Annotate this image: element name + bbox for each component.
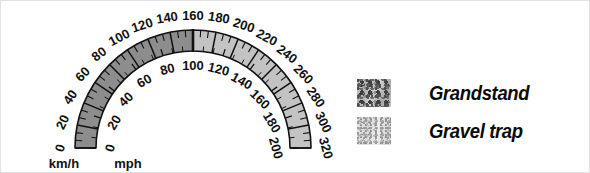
gravel-texture-swatch: [357, 117, 391, 145]
tick-label: 140: [155, 8, 179, 26]
mph-unit-label: mph: [114, 156, 142, 171]
legend-label-grandstand: Grandstand: [429, 81, 529, 105]
legend-item-gravel-trap: Gravel trap: [357, 115, 585, 147]
tick-label: 80: [158, 60, 176, 78]
tick-label: 180: [260, 109, 284, 135]
tick-label: 80: [89, 44, 110, 65]
tick-label: 20: [104, 112, 124, 132]
tick-label: 120: [129, 15, 154, 36]
tick-label: 240: [274, 41, 300, 66]
tick-label: 300: [312, 109, 335, 135]
tick-label: 160: [247, 86, 273, 112]
tick-label: 20: [53, 112, 73, 132]
tick-label: 260: [291, 61, 317, 87]
tick-label: 0: [102, 142, 118, 153]
legend-label-gravel-trap: Gravel trap: [429, 119, 523, 143]
tick-label: 280: [304, 84, 329, 110]
surface-legend: Grandstand Gravel trap: [357, 77, 585, 147]
tick-label: 200: [231, 15, 256, 36]
tick-label: 40: [60, 87, 81, 107]
grandstand-texture-swatch: [357, 79, 391, 107]
kmh-unit-label: km/h: [49, 156, 79, 171]
tick-label: 60: [72, 64, 93, 85]
figure-container: 0204060801001201401601802002202402602803…: [0, 0, 590, 173]
tick-label: 160: [182, 8, 204, 23]
tick-label: 200: [266, 135, 286, 160]
tick-label: 60: [134, 71, 154, 91]
tick-label: 220: [254, 26, 280, 49]
tick-label: 120: [206, 59, 231, 79]
tick-label: 0: [52, 142, 68, 153]
tick-label: 40: [115, 89, 136, 110]
tick-label: 140: [229, 69, 255, 93]
tick-label: 180: [207, 8, 231, 26]
tick-label: 320: [316, 135, 336, 160]
tick-label: 100: [182, 58, 204, 73]
legend-item-grandstand: Grandstand: [357, 77, 585, 109]
tick-label: 100: [106, 26, 132, 49]
